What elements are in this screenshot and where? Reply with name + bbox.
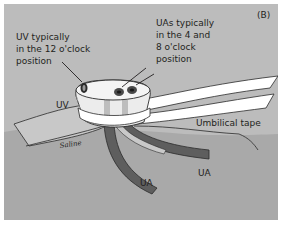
umbilical-catheter-diagram: (B) UV typically in the 12 o'clock posit… — [4, 4, 278, 220]
ua-label-left: UA — [140, 178, 154, 188]
ua-lumen-right-inner — [130, 88, 134, 91]
umbilical-tape-label: Umbilical tape — [196, 118, 261, 128]
ua-label-right: UA — [198, 168, 212, 178]
uv-lumen-inner — [83, 85, 86, 91]
uv-label: UV — [56, 100, 70, 110]
ua-lumen-left-inner — [117, 90, 121, 93]
panel-label: (B) — [257, 10, 270, 20]
